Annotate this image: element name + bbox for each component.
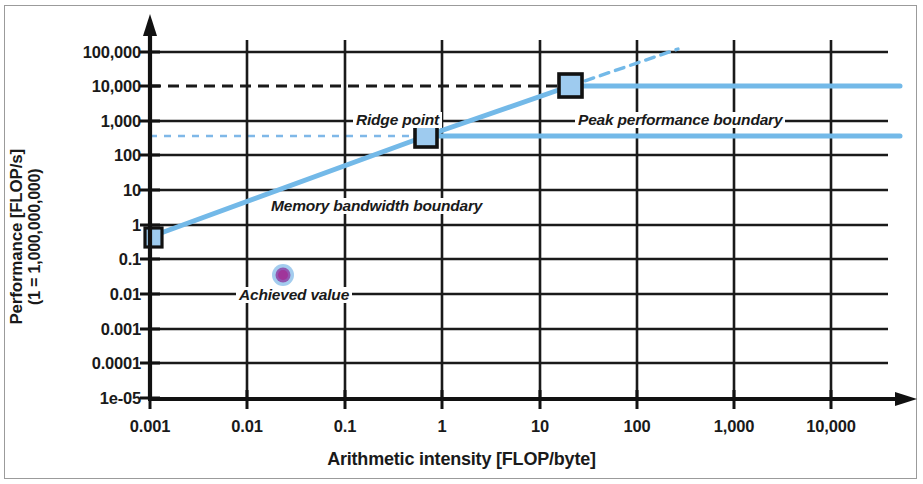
x-tick-0.01: 0.01 <box>231 417 262 436</box>
y-tick-100000: 100,000 <box>83 43 141 62</box>
annotation-memory-bandwidth-boundary: Memory bandwidth boundary <box>268 198 485 214</box>
y-tick-10000: 10,000 <box>92 77 141 96</box>
roofline-figure: 100,000 10,000 1,000 100 10 1 0.1 0.01 0… <box>0 0 923 484</box>
memory-bandwidth-line <box>150 136 426 237</box>
horizontal-gridlines <box>150 52 888 363</box>
x-tick-1: 1 <box>438 417 447 436</box>
y-axis-title-line2: (1 = 1,000,000,000) <box>27 57 45 417</box>
marker-peak-point <box>559 74 582 97</box>
x-axis-arrow <box>895 392 917 406</box>
marker-ridge-point <box>415 125 437 147</box>
x-tick-1000: 1,000 <box>714 417 754 436</box>
annotation-achieved-value: Achieved value <box>236 287 352 303</box>
x-axis-title: Arithmetic intensity [FLOP/byte] <box>0 449 923 470</box>
y-tick-10: 10 <box>123 181 141 200</box>
x-tick-10000: 10,000 <box>806 417 855 436</box>
annotation-ridge-point: Ridge point <box>353 112 442 128</box>
y-tick-0.01: 0.01 <box>110 285 141 304</box>
marker-start-point <box>145 228 162 247</box>
x-tick-10: 10 <box>531 417 549 436</box>
marker-achieved-value <box>272 264 294 286</box>
y-tick-1000: 1,000 <box>101 112 141 131</box>
memory-bandwidth-line-upper <box>426 86 570 136</box>
x-tick-0.1: 0.1 <box>334 417 356 436</box>
annotation-peak-performance-boundary: Peak performance boundary <box>575 112 785 128</box>
y-tick-0.001: 0.001 <box>101 320 141 339</box>
y-axis-arrow <box>143 14 157 36</box>
y-tick-100: 100 <box>114 146 141 165</box>
memory-bandwidth-extrapolation <box>570 49 678 86</box>
x-tick-0.001: 0.001 <box>130 417 170 436</box>
y-tick-0.0001: 0.0001 <box>92 354 141 373</box>
y-tick-1e-05: 1e-05 <box>100 389 141 408</box>
vertical-gridlines <box>247 40 831 398</box>
y-tick-0.1: 0.1 <box>119 250 141 269</box>
y-axis-title-line1: Performance [FLOP/s] <box>7 149 26 325</box>
y-tick-1: 1 <box>132 216 141 235</box>
y-axis-title: Performance [FLOP/s] (1 = 1,000,000,000) <box>7 57 45 417</box>
x-tick-100: 100 <box>624 417 651 436</box>
